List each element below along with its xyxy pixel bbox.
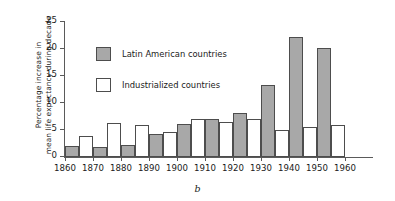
y-tick-label: 10 xyxy=(35,96,57,107)
bar xyxy=(135,125,149,157)
bar xyxy=(289,37,303,157)
x-tick xyxy=(93,157,94,161)
x-tick xyxy=(345,157,346,161)
y-axis-title: Percentage increase in mean life expecta… xyxy=(0,0,40,165)
y-tick-label: 25 xyxy=(35,15,57,26)
legend: Latin American countriesIndustrialized c… xyxy=(96,46,286,108)
x-tick xyxy=(65,157,66,161)
y-tick: 15 xyxy=(60,75,65,76)
bar xyxy=(219,122,233,157)
bar xyxy=(163,132,177,157)
bar xyxy=(191,119,205,157)
legend-swatch-icon xyxy=(96,78,111,92)
legend-label: Latin American countries xyxy=(122,49,227,60)
legend-item: Industrialized countries xyxy=(96,77,286,93)
bar xyxy=(261,85,275,157)
y-tick: 25 xyxy=(60,21,65,22)
y-tick-label: 0 xyxy=(35,150,57,161)
y-axis-title-line2: mean life expectancy during decade xyxy=(44,10,54,160)
panel-caption: b xyxy=(0,183,395,194)
y-tick-label: 15 xyxy=(35,69,57,80)
x-tick xyxy=(121,157,122,161)
y-axis-title-line1: Percentage increase in xyxy=(34,10,44,160)
bar xyxy=(107,123,121,157)
x-axis-line xyxy=(64,157,373,158)
bar xyxy=(303,127,317,157)
bar xyxy=(79,136,93,157)
legend-swatch-icon xyxy=(96,47,111,61)
x-tick xyxy=(205,157,206,161)
bar xyxy=(177,124,191,157)
bar xyxy=(331,125,345,157)
x-tick xyxy=(177,157,178,161)
y-tick-label: 20 xyxy=(35,42,57,53)
x-tick xyxy=(149,157,150,161)
bar xyxy=(317,48,331,157)
bar xyxy=(65,146,79,157)
bar xyxy=(93,147,107,157)
x-tick xyxy=(233,157,234,161)
legend-label: Industrialized countries xyxy=(122,80,220,91)
y-tick: 5 xyxy=(60,129,65,130)
y-axis-line xyxy=(64,22,65,158)
x-tick-label: 1960 xyxy=(328,163,362,174)
x-tick xyxy=(317,157,318,161)
bar xyxy=(121,145,135,157)
x-tick xyxy=(289,157,290,161)
bar xyxy=(247,119,261,157)
figure-panel-b: Percentage increase in mean life expecta… xyxy=(0,0,395,201)
bar xyxy=(149,134,163,157)
bar xyxy=(205,119,219,157)
legend-item: Latin American countries xyxy=(96,46,286,62)
bar xyxy=(233,113,247,157)
y-tick-label: 5 xyxy=(35,123,57,134)
bar xyxy=(275,130,289,157)
x-tick xyxy=(261,157,262,161)
y-tick: 10 xyxy=(60,102,65,103)
y-tick: 20 xyxy=(60,48,65,49)
